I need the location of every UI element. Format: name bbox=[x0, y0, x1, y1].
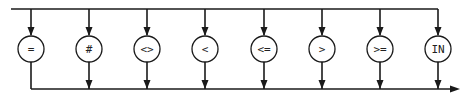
operator-branch: IN bbox=[425, 9, 451, 89]
operator-branch: <> bbox=[134, 9, 160, 89]
operator-branch: = bbox=[18, 9, 44, 89]
operator-label: >= bbox=[373, 43, 387, 56]
arrow-down-icon bbox=[202, 80, 209, 89]
operator-branch: >= bbox=[367, 9, 393, 89]
operator-label: <> bbox=[140, 43, 154, 56]
arrow-down-icon bbox=[435, 80, 442, 89]
operator-label: # bbox=[86, 43, 93, 56]
arrow-down-icon bbox=[202, 27, 209, 36]
operator-branch: < bbox=[192, 9, 218, 89]
arrow-down-icon bbox=[28, 27, 35, 36]
arrow-down-icon bbox=[377, 80, 384, 89]
operator-branch: # bbox=[76, 9, 102, 89]
syntax-diagram: =#<><<=>>=IN bbox=[0, 0, 472, 98]
arrow-down-icon bbox=[144, 80, 151, 89]
arrow-down-icon bbox=[261, 27, 268, 36]
operator-label: <= bbox=[257, 43, 271, 56]
output-arrow-icon bbox=[450, 86, 460, 93]
arrow-down-icon bbox=[319, 80, 326, 89]
arrow-down-icon bbox=[377, 27, 384, 36]
arrow-down-icon bbox=[86, 80, 93, 89]
operator-label: = bbox=[28, 43, 35, 56]
arrow-down-icon bbox=[144, 27, 151, 36]
operator-branch: > bbox=[309, 9, 335, 89]
arrow-down-icon bbox=[319, 27, 326, 36]
arrow-down-icon bbox=[86, 27, 93, 36]
operator-label: < bbox=[202, 43, 209, 56]
arrow-down-icon bbox=[261, 80, 268, 89]
operator-label: > bbox=[319, 43, 326, 56]
arrow-down-icon bbox=[435, 27, 442, 36]
operator-branch: <= bbox=[251, 9, 277, 89]
operator-label: IN bbox=[431, 43, 444, 56]
